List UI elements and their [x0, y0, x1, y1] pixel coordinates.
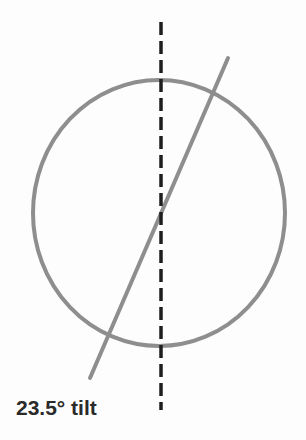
- tilt-label: 23.5° tilt: [16, 396, 97, 420]
- diagram-canvas: [0, 0, 306, 440]
- tilted-axis-line: [90, 58, 228, 378]
- tilt-diagram: 23.5° tilt: [0, 0, 306, 440]
